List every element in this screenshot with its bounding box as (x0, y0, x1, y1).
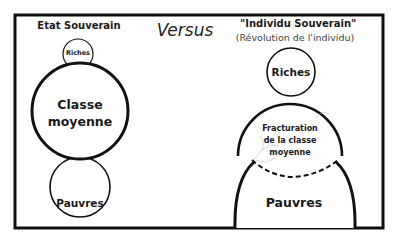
right-riches-label: Riches (266, 66, 316, 78)
right-pauvres-label: Pauvres (254, 195, 334, 210)
right-pauvres-fill (235, 156, 356, 228)
fracture-line-2: de la classe (245, 135, 335, 147)
classe-line-2: moyenne (40, 113, 120, 130)
right-fracture-label: Fracturation de la classe moyenne (245, 123, 335, 159)
left-title: Etat Souverain (20, 20, 138, 31)
right-title: "Individu Souverain" (240, 18, 350, 29)
versus-label: Versus (140, 20, 230, 40)
left-pauvres-label: Pauvres (50, 197, 110, 209)
fracture-line-3: moyenne (245, 147, 335, 159)
classe-line-1: Classe (40, 96, 120, 113)
right-subtitle: (Révolution de l'individu) (228, 32, 362, 43)
left-riches-label: Riches (63, 49, 93, 57)
fracture-line-1: Fracturation (245, 123, 335, 135)
left-classe-moyenne-label: Classe moyenne (40, 96, 120, 130)
